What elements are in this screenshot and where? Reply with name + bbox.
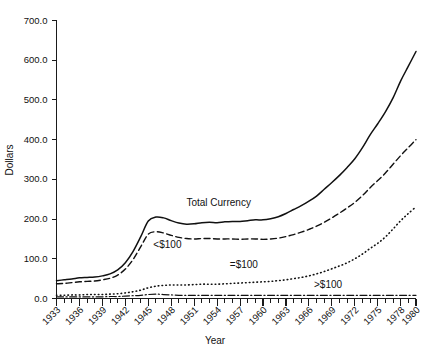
x-tick-label: 1966 <box>292 304 315 327</box>
series-label: Total Currency <box>186 197 250 208</box>
series-label: <$100 <box>153 239 182 250</box>
line-chart: 0.0100.0200.0300.0400.0500.0600.0700.0 1… <box>0 0 426 351</box>
series-label: >$100 <box>314 279 343 290</box>
x-tick-label: 1963 <box>269 304 292 327</box>
y-tick-label: 500.0 <box>24 94 48 105</box>
y-tick-label: 200.0 <box>24 213 48 224</box>
x-axis-title: Year <box>205 335 226 346</box>
chart-container: 0.0100.0200.0300.0400.0500.0600.0700.0 1… <box>0 0 426 351</box>
x-tick-label: 1957 <box>223 304 246 327</box>
x-tick-label: 1954 <box>200 304 223 327</box>
x-tick-label: 1951 <box>177 304 200 327</box>
x-tick-label: 1980 <box>399 304 422 327</box>
x-tick-label: 1942 <box>109 304 132 327</box>
x-tick-label: 1936 <box>63 304 86 327</box>
x-tick-label: 1945 <box>131 304 154 327</box>
y-axis-title: Dollars <box>4 144 15 175</box>
series-line-dotted <box>57 207 417 296</box>
y-tick-label: 600.0 <box>24 54 48 65</box>
y-tick-label: 0.0 <box>34 293 47 304</box>
x-tick-label: 1960 <box>246 304 269 327</box>
y-tick-label: 700.0 <box>24 15 48 26</box>
series-annotations: Total Currency<$100=$100>$100 <box>153 197 342 290</box>
x-tick-label: 1933 <box>40 304 63 327</box>
x-tick-label: 1975 <box>361 304 384 327</box>
x-tick-label: 1969 <box>315 304 338 327</box>
x-tick-label: 1972 <box>338 304 361 327</box>
y-tick-label: 100.0 <box>24 253 48 264</box>
series-line-solid <box>57 51 417 280</box>
x-axis: 1933193619391942194519481951195419571960… <box>40 299 422 327</box>
y-tick-label: 400.0 <box>24 134 48 145</box>
x-tick-label: 1939 <box>86 304 109 327</box>
x-tick-label: 1948 <box>154 304 177 327</box>
y-tick-label: 300.0 <box>24 173 48 184</box>
series-label: =$100 <box>230 259 259 270</box>
y-axis: 0.0100.0200.0300.0400.0500.0600.0700.0 <box>24 15 57 304</box>
